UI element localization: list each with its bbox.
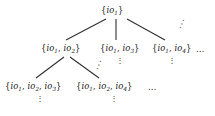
node-subscript: 1 — [18, 86, 22, 92]
tree-node-l2-c: {io1, io4} — [152, 44, 191, 53]
node-subscript: 3 — [130, 48, 134, 54]
node-subscript: 4 — [182, 48, 186, 54]
edge-root-to-l2c — [127, 19, 165, 40]
vertical-ellipsis-icon: ⋮ — [168, 56, 176, 64]
edge-l2a-to-l3a — [36, 57, 64, 78]
node-subscript: 1 — [165, 48, 169, 54]
edge-root-to-l2a — [66, 19, 106, 40]
tree-node-l3-a: {io1, io2, io3} — [5, 82, 61, 91]
tree-node-l2-b: {io1, io3} — [100, 44, 139, 53]
node-subscript: 2 — [35, 86, 39, 92]
close-brace: } — [75, 43, 80, 53]
diagonal-ellipsis-icon: ⋰ — [177, 19, 188, 30]
close-brace: } — [186, 43, 191, 53]
tree-node-l2-a: {io1, io2} — [41, 44, 80, 53]
node-subscript: 3 — [52, 86, 56, 92]
tree-diagram: {io1} ⋰ {io1, io2} {io1, io3} {io1, io4}… — [0, 0, 215, 116]
close-brace: } — [118, 5, 123, 15]
vertical-ellipsis-icon: ⋮ — [36, 94, 44, 102]
vertical-ellipsis-icon: ⋮ — [116, 56, 124, 64]
tree-node-root: {io1} — [101, 6, 123, 15]
vertical-ellipsis-icon: ⋮ — [110, 94, 118, 102]
close-brace: } — [56, 81, 61, 91]
node-subscript: 1 — [89, 86, 93, 92]
node-subscript: 1 — [54, 48, 58, 54]
tree-node-l3-b: {io1, io2, io4} — [76, 82, 132, 91]
node-subscript: 1 — [114, 10, 118, 16]
node-subscript: 2 — [106, 86, 110, 92]
close-brace: } — [127, 81, 132, 91]
node-subscript: 4 — [123, 86, 127, 92]
trailing-ellipsis-level3: … — [148, 83, 156, 91]
diagonal-ellipsis-icon: ⋰ — [94, 60, 105, 71]
trailing-ellipsis-level2: … — [196, 45, 204, 53]
close-brace: } — [134, 43, 139, 53]
node-subscript: 1 — [113, 48, 117, 54]
node-subscript: 2 — [71, 48, 75, 54]
